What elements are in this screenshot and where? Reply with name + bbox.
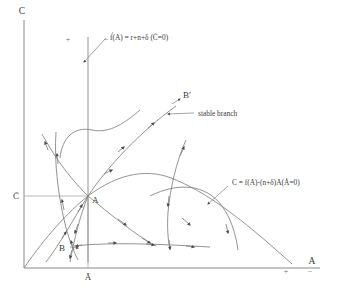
trajectory-right-descending	[168, 140, 186, 250]
steady-state-gridlines	[24, 196, 88, 268]
trajectory-far-right-upper	[150, 187, 238, 250]
stable-branch-leader	[168, 113, 194, 114]
nullcline-flow-arrows	[104, 170, 190, 225]
b-pointer	[70, 247, 78, 248]
point-a-label: A	[92, 195, 99, 205]
b-prime-pointer	[172, 99, 180, 104]
trajectory-right-descending-arrows	[168, 147, 184, 249]
trajectory-upper-left	[42, 134, 88, 196]
point-b-label: B	[59, 243, 65, 253]
y-axis-label: C	[19, 6, 25, 16]
c-dot-zero-equation: f́(A) = r+n+δ (Ċ=0)	[110, 32, 169, 42]
trajectory-far-right-upper-arrows	[226, 224, 228, 233]
stable-branch-trajectory	[46, 106, 176, 262]
c-dot-sign-right: −	[104, 35, 109, 44]
stable-branch-label: stable branch	[198, 109, 237, 118]
a-dot-sign-right: −	[308, 267, 313, 276]
a-dot-zero-equation: C = f(A)-(n+δ)A(Ȧ=0)	[232, 178, 300, 187]
c-dot-sign-left: +	[66, 35, 71, 44]
phase-diagram-figure: C A C̄ Ā f́(A) = r+n+δ (Ċ=0) C = f(A)-…	[0, 0, 345, 290]
c-dot-zero-leader	[84, 38, 106, 62]
trajectory-down-left	[70, 196, 88, 262]
a-dot-sign-left: +	[284, 267, 289, 276]
trajectory-loop-above	[60, 110, 140, 158]
c-bar-tick-label: C̄	[13, 191, 19, 201]
a-bar-tick-label: Ā	[85, 272, 92, 282]
phase-diagram-canvas: C A C̄ Ā f́(A) = r+n+δ (Ċ=0) C = f(A)-…	[0, 0, 345, 290]
point-b-prime-label: B′	[183, 90, 191, 100]
axes-group	[24, 20, 320, 268]
stable-branch-arrows	[62, 123, 154, 238]
trajectory-left-outer-arrows	[57, 154, 74, 250]
x-axis-label: A	[309, 256, 316, 266]
